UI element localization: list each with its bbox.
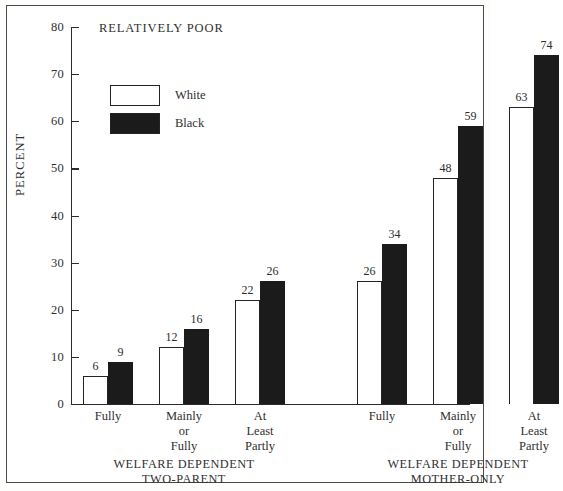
y-tick-label-10: 10: [51, 349, 64, 364]
bar-white-g1-c1[interactable]: 6: [83, 376, 108, 404]
bar-value-white-g1-c2: 12: [166, 330, 178, 345]
bar-value-white-g1-c3: 22: [242, 283, 254, 298]
bar-white-g2-c3[interactable]: 63: [509, 107, 534, 404]
x-axis-line: [71, 404, 470, 405]
group-label-1: WELFARE DEPENDENT TWO-PARENT: [89, 457, 279, 486]
bar-black-g1-c1[interactable]: 9: [108, 362, 133, 404]
bar-white-g2-c2[interactable]: 48: [433, 178, 458, 404]
bar-value-white-g2-c2: 48: [440, 161, 452, 176]
bar-value-black-g2-c2: 59: [465, 109, 477, 124]
bar-black-g2-c1[interactable]: 34: [382, 244, 407, 404]
y-tick-label-70: 70: [51, 67, 64, 82]
y-tick-label-20: 20: [51, 302, 64, 317]
y-tick-label-80: 80: [51, 20, 64, 35]
y-tick-label-30: 30: [51, 255, 64, 270]
y-tick-label-40: 40: [51, 208, 64, 223]
bar-white-g1-c3[interactable]: 22: [235, 300, 260, 404]
bar-value-white-g2-c3: 63: [516, 90, 528, 105]
y-axis-label: PERCENT: [13, 133, 28, 196]
bar-black-g1-c3[interactable]: 26: [260, 281, 285, 404]
bar-white-g2-c1[interactable]: 26: [357, 281, 382, 404]
y-tick-mark-0: [71, 404, 79, 405]
bar-black-g2-c2[interactable]: 59: [458, 126, 483, 404]
bar-black-g1-c2[interactable]: 16: [184, 329, 209, 404]
bar-value-black-g2-c1: 34: [389, 227, 401, 242]
y-tick-label-60: 60: [51, 114, 64, 129]
category-label-g1-c3: At Least Partly: [215, 409, 305, 454]
y-tick-label-50: 50: [51, 161, 64, 176]
category-label-g2-c3: At Least Partly: [489, 409, 563, 454]
bar-white-g1-c2[interactable]: 12: [159, 347, 184, 404]
bar-value-white-g2-c1: 26: [364, 264, 376, 279]
plot-area: 6912162226263448596374: [71, 27, 469, 404]
bar-value-black-g1-c3: 26: [267, 264, 279, 279]
group-label-2: WELFARE DEPENDENT MOTHER-ONLY: [363, 457, 553, 486]
bar-black-g2-c3[interactable]: 74: [534, 55, 559, 404]
bar-value-black-g1-c1: 9: [118, 345, 124, 360]
bar-value-black-g1-c2: 16: [191, 312, 203, 327]
bar-value-black-g2-c3: 74: [541, 38, 553, 53]
bar-value-white-g1-c1: 6: [93, 359, 99, 374]
